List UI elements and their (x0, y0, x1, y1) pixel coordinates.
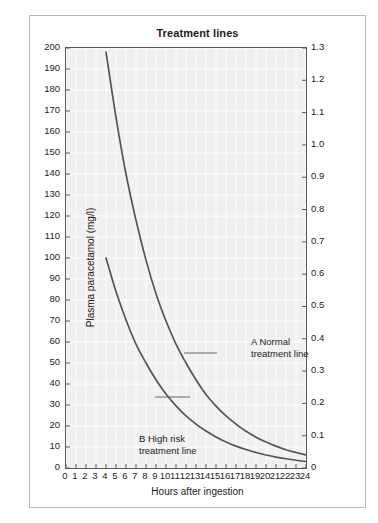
y-axis-right-tick-0.5: 0.5 (311, 300, 324, 310)
y-axis-left-tick-160: 160 (44, 126, 60, 136)
y-axis-right-tick-0.3: 0.3 (311, 365, 324, 375)
annotation-normal-line-text2: treatment line (251, 348, 309, 360)
y-axis-left-tick-150: 150 (44, 147, 60, 157)
y-axis-right-tick-0.2: 0.2 (311, 397, 324, 407)
y-axis-right-tick-1.1: 1.1 (311, 107, 324, 117)
y-axis-right-tick-0.7: 0.7 (311, 236, 324, 246)
plot-area: A Normal treatment line B High risk trea… (65, 47, 307, 469)
y-axis-left-tick-50: 50 (49, 357, 60, 367)
y-axis-left-tick-80: 80 (49, 294, 60, 304)
annotation-high-risk-line: B High risk treatment line (139, 433, 197, 456)
y-axis-right-tick-0.9: 0.9 (311, 171, 324, 181)
y-axis-left-tick-100: 100 (44, 252, 60, 262)
y-axis-left-tick-200: 200 (44, 42, 60, 52)
y-axis-right-tick-1.2: 1.2 (311, 74, 324, 84)
y-axis-left-tick-120: 120 (44, 210, 60, 220)
x-axis-tick-labels: 0123456789101112131415161718192021222324 (65, 471, 305, 485)
annotation-high-risk-line-text1: B High risk (139, 433, 197, 445)
annotation-normal-line-text1: A Normal (251, 336, 309, 348)
y-axis-right-tick-0.6: 0.6 (311, 268, 324, 278)
y-axis-left-tick-180: 180 (44, 84, 60, 94)
y-axis-right-tick-1.3: 1.3 (311, 42, 324, 52)
y-axis-left-title: Plasma paracetamol (mg/l) (85, 168, 96, 368)
y-axis-left-tick-60: 60 (49, 336, 60, 346)
annotation-normal-line: A Normal treatment line (251, 336, 309, 359)
y-axis-left-tick-labels: 0102030405060708090100110120130140150160… (29, 47, 60, 467)
annotation-high-risk-line-text2: treatment line (139, 445, 197, 457)
y-axis-left-tick-20: 20 (49, 420, 60, 430)
y-axis-right-tick-1.0: 1.0 (311, 139, 324, 149)
y-axis-left-tick-40: 40 (49, 378, 60, 388)
gridlines (66, 48, 306, 468)
y-axis-left-tick-110: 110 (45, 231, 60, 241)
y-axis-right-tick-0.4: 0.4 (311, 333, 324, 343)
y-axis-left-tick-30: 30 (49, 399, 60, 409)
x-axis-title: Hours after ingestion (29, 486, 366, 497)
x-axis-tick-24: 24 (295, 471, 315, 481)
y-axis-left-tick-190: 190 (44, 63, 60, 73)
chart-title: Treatment lines (29, 27, 366, 39)
plot-canvas (66, 48, 306, 468)
y-axis-right-tick-labels: 00.10.20.30.40.50.60.70.80.91.01.11.21.3 (311, 47, 341, 467)
y-axis-left-tick-170: 170 (44, 105, 60, 115)
y-axis-left-tick-90: 90 (49, 273, 60, 283)
y-axis-left-tick-70: 70 (49, 315, 60, 325)
y-axis-left-tick-130: 130 (44, 189, 60, 199)
y-axis-left-tick-10: 10 (49, 441, 60, 451)
y-axis-right-tick-0.1: 0.1 (311, 430, 324, 440)
y-axis-left-tick-140: 140 (44, 168, 60, 178)
y-axis-right-tick-0.8: 0.8 (311, 204, 324, 214)
chart-figure: Treatment lines 010203040506070809010011… (0, 0, 378, 523)
